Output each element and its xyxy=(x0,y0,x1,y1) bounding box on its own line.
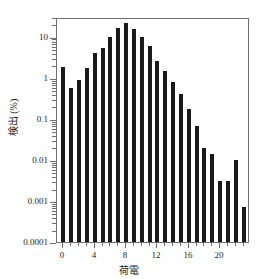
y-tick-minor xyxy=(52,44,56,45)
y-tick-minor xyxy=(52,211,56,212)
x-tick-minor xyxy=(109,243,110,246)
bar xyxy=(179,94,183,242)
x-tick-minor xyxy=(133,243,134,246)
bar xyxy=(226,181,230,242)
x-tick-major xyxy=(94,243,95,248)
y-tick-major xyxy=(50,120,56,121)
y-tick-major xyxy=(50,243,56,244)
bar xyxy=(93,53,97,242)
bar xyxy=(108,37,112,242)
y-tick-minor xyxy=(52,66,56,67)
y-tick-minor xyxy=(52,47,56,48)
x-tick-minor xyxy=(180,243,181,246)
bar xyxy=(124,23,128,242)
y-tick-minor xyxy=(52,83,56,84)
y-tick-minor xyxy=(52,122,56,123)
y-tick-minor xyxy=(52,42,56,43)
y-tick-minor xyxy=(52,39,56,40)
x-tick-label: 0 xyxy=(52,250,72,260)
x-tick-minor xyxy=(235,243,236,246)
x-tick-major xyxy=(62,243,63,248)
x-tick-major xyxy=(156,243,157,248)
y-tick-minor xyxy=(52,88,56,89)
x-tick-minor xyxy=(70,243,71,246)
x-tick-minor xyxy=(243,243,244,246)
y-tick-minor xyxy=(52,18,56,19)
bar xyxy=(148,46,152,242)
y-tick-major xyxy=(50,161,56,162)
x-tick-label: 16 xyxy=(178,250,198,260)
x-tick-minor xyxy=(149,243,150,246)
plot-area xyxy=(56,18,249,243)
bar xyxy=(187,109,191,242)
x-tick-minor xyxy=(78,243,79,246)
y-axis-title: 検出 (%) xyxy=(5,78,20,158)
y-tick-minor xyxy=(52,136,56,137)
y-tick-minor xyxy=(52,177,56,178)
y-tick-minor xyxy=(52,231,56,232)
y-tick-minor xyxy=(52,50,56,51)
y-tick-minor xyxy=(52,173,56,174)
y-tick-label: 1 xyxy=(44,74,49,83)
bar xyxy=(85,68,89,242)
y-tick-minor xyxy=(52,91,56,92)
y-tick-major xyxy=(50,79,56,80)
x-tick-label: 20 xyxy=(209,250,229,260)
y-tick-minor xyxy=(52,167,56,168)
y-tick-minor xyxy=(52,170,56,171)
x-tick-major xyxy=(125,243,126,248)
bar xyxy=(218,181,222,242)
bar xyxy=(69,88,73,242)
y-tick-major xyxy=(50,202,56,203)
y-tick-minor xyxy=(52,165,56,166)
x-tick-minor xyxy=(164,243,165,246)
y-tick-minor xyxy=(52,54,56,55)
y-tick-minor xyxy=(52,25,56,26)
y-tick-minor xyxy=(52,214,56,215)
y-tick-label: 0.0001 xyxy=(23,238,48,247)
y-tick-minor xyxy=(52,163,56,164)
y-tick-minor xyxy=(52,182,56,183)
bar xyxy=(155,61,159,242)
bar xyxy=(116,28,120,242)
x-tick-minor xyxy=(227,243,228,246)
x-tick-minor xyxy=(117,243,118,246)
y-tick-minor xyxy=(52,129,56,130)
chart-figure: 1010.10.010.0010.0001 048121620 検出 (%) 荷… xyxy=(0,0,258,279)
y-tick-minor xyxy=(52,107,56,108)
y-tick-minor xyxy=(52,85,56,86)
x-tick-label: 12 xyxy=(146,250,166,260)
y-tick-minor xyxy=(52,204,56,205)
x-tick-major xyxy=(188,243,189,248)
y-tick-minor xyxy=(52,124,56,125)
x-tick-label: 4 xyxy=(84,250,104,260)
y-tick-minor xyxy=(52,190,56,191)
y-tick-label: 10 xyxy=(39,33,48,42)
y-tick-minor xyxy=(52,218,56,219)
y-tick-minor xyxy=(52,208,56,209)
bar xyxy=(171,82,175,242)
x-tick-major xyxy=(219,243,220,248)
x-axis-title: 荷電 xyxy=(0,262,258,277)
y-tick-minor xyxy=(52,100,56,101)
bar xyxy=(61,67,65,242)
y-tick-minor xyxy=(52,141,56,142)
bar xyxy=(77,80,81,242)
bar xyxy=(242,207,246,242)
x-tick-minor xyxy=(196,243,197,246)
y-tick-label: 0.001 xyxy=(28,197,48,206)
x-tick-minor xyxy=(102,243,103,246)
y-tick-minor xyxy=(52,148,56,149)
bar xyxy=(163,71,167,242)
y-tick-minor xyxy=(52,223,56,224)
x-tick-minor xyxy=(86,243,87,246)
bar xyxy=(202,148,206,242)
x-tick-label: 8 xyxy=(115,250,135,260)
x-tick-minor xyxy=(211,243,212,246)
y-tick-minor xyxy=(52,126,56,127)
bar xyxy=(140,37,144,242)
y-tick-label: 0.01 xyxy=(32,156,48,165)
y-tick-minor xyxy=(52,95,56,96)
x-tick-minor xyxy=(172,243,173,246)
y-tick-minor xyxy=(52,59,56,60)
